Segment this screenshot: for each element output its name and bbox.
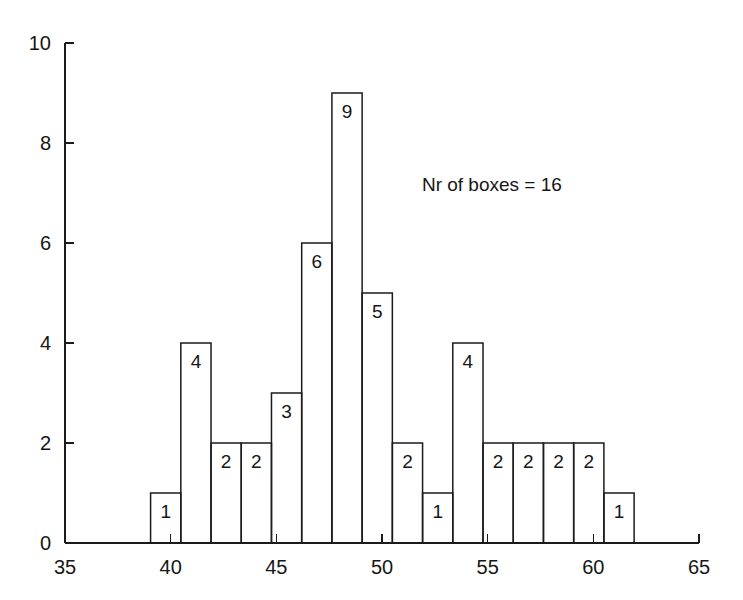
bar-value-label: 1	[160, 501, 171, 522]
bar-value-label: 2	[221, 451, 232, 472]
x-tick-label: 50	[371, 556, 393, 578]
chart-annotations: Nr of boxes = 16	[422, 174, 562, 195]
histogram-bar	[453, 343, 483, 543]
histogram-bars	[151, 93, 635, 543]
x-tick-label: 55	[477, 556, 499, 578]
histogram-bar	[332, 93, 362, 543]
bar-value-label: 4	[191, 351, 202, 372]
y-tick-label: 4	[40, 332, 51, 354]
x-tick-label: 45	[265, 556, 287, 578]
histogram-bar	[302, 243, 332, 543]
bar-value-label: 2	[493, 451, 504, 472]
y-tick-label: 8	[40, 132, 51, 154]
x-tick-label: 65	[688, 556, 710, 578]
y-tick-label: 10	[29, 32, 51, 54]
histogram-svg: 0246810 35404550556065 1422369521422221 …	[0, 0, 743, 600]
x-tick-label: 35	[54, 556, 76, 578]
bar-value-label: 6	[312, 251, 323, 272]
bar-value-label: 2	[553, 451, 564, 472]
bar-value-label: 3	[281, 401, 292, 422]
bar-value-label: 1	[432, 501, 443, 522]
bar-value-label: 5	[372, 301, 383, 322]
histogram-bar	[362, 293, 392, 543]
y-tick-label: 2	[40, 432, 51, 454]
histogram-chart: 0246810 35404550556065 1422369521422221 …	[0, 0, 743, 600]
histogram-bar	[181, 343, 211, 543]
x-tick-label: 60	[582, 556, 604, 578]
bar-value-label: 2	[251, 451, 262, 472]
bar-value-label: 9	[342, 101, 353, 122]
bar-value-label: 4	[463, 351, 474, 372]
x-axis-ticks: 35404550556065	[54, 534, 710, 578]
y-axis-ticks: 0246810	[29, 32, 74, 554]
bar-value-label: 1	[614, 501, 625, 522]
y-tick-label: 6	[40, 232, 51, 254]
bar-value-label: 2	[402, 451, 413, 472]
bar-value-label: 2	[523, 451, 534, 472]
bar-value-label: 2	[584, 451, 595, 472]
boxes-count-annotation: Nr of boxes = 16	[422, 174, 562, 195]
x-tick-label: 40	[160, 556, 182, 578]
y-tick-label: 0	[40, 532, 51, 554]
